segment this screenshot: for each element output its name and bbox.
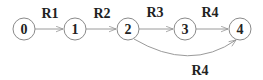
edge-label-r3: R3 <box>146 5 163 20</box>
node-2-label: 2 <box>125 22 132 37</box>
state-diagram: R1 R2 R3 R4 R4 0 1 2 3 4 <box>0 0 263 80</box>
diagram-canvas: R1 R2 R3 R4 R4 0 1 2 3 4 <box>0 0 263 80</box>
node-0-label: 0 <box>21 22 28 37</box>
edge-2-4-curved <box>134 39 236 56</box>
node-1-label: 1 <box>72 22 79 37</box>
edge-label-r1: R1 <box>41 6 58 21</box>
node-1: 1 <box>64 18 86 40</box>
node-4-label: 4 <box>237 22 244 37</box>
node-0: 0 <box>13 18 35 40</box>
node-2: 2 <box>117 18 139 40</box>
edge-label-r4-curved: R4 <box>191 63 208 78</box>
node-4: 4 <box>229 18 251 40</box>
edge-label-r4: R4 <box>201 5 218 20</box>
edge-label-r2: R2 <box>93 6 110 21</box>
node-3-label: 3 <box>182 22 189 37</box>
node-3: 3 <box>174 18 196 40</box>
